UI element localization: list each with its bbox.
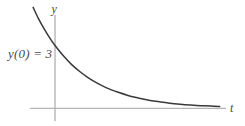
y-axis-label: y xyxy=(52,3,57,15)
exponential-decay-figure: y(0) = 3 y t xyxy=(0,0,245,126)
initial-value-label: y(0) = 3 xyxy=(8,47,52,60)
t-axis-label: t xyxy=(230,102,233,114)
exponential-decay-curve xyxy=(33,7,220,106)
plot-canvas xyxy=(0,0,245,126)
